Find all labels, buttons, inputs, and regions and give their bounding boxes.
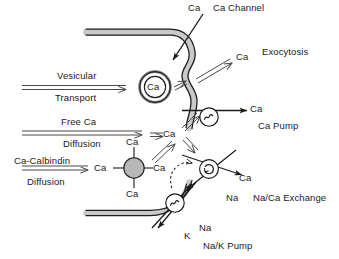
label-exocytosis: Exocytosis — [262, 46, 308, 57]
label-exchange-na: Na — [226, 192, 238, 203]
label-ca-pump-ion: Ca — [250, 103, 262, 114]
label-calbindin-ca-top: Ca — [126, 136, 138, 147]
label-ca-pump: Ca Pump — [258, 120, 298, 131]
label-na-k-pump: Na/K Pump — [203, 240, 252, 251]
label-calbindin-ca-bottom: Ca — [126, 188, 138, 199]
label-calbindin-ca-right: Ca — [153, 162, 165, 173]
label-diffusion-free: Diffusion — [63, 138, 101, 149]
label-free-ca: Free Ca — [61, 116, 96, 127]
ca-to-exchanger-arrow — [183, 137, 198, 153]
calbindin-release-arrow — [152, 141, 175, 163]
label-calbindin-ca-left: Ca — [94, 162, 106, 173]
label-ca-cytosol: Ca — [163, 128, 175, 139]
label-exocytosis-ca: Ca — [236, 51, 248, 62]
calbindin-complex — [113, 147, 153, 188]
label-exchange-ca: Ca — [239, 172, 251, 183]
label-vesicular: Vesicular — [57, 70, 96, 81]
label-pump-na: Na — [199, 222, 211, 233]
calcium-transport-diagram: Ca Ca Channel Vesicular Transport Ca Ca … — [0, 0, 339, 259]
label-diffusion-calbindin: Diffusion — [27, 176, 65, 187]
label-vesicle-ca: Ca — [147, 81, 159, 92]
label-pump-k: K — [184, 230, 190, 241]
free-ca-to-cytosol-arrow — [150, 133, 163, 137]
label-ca-entry: Ca — [188, 2, 200, 13]
vesicular-transport-arrow — [22, 86, 126, 90]
label-transport: Transport — [55, 92, 96, 103]
label-na-ca-exchange: Na/Ca Exchange — [253, 192, 326, 203]
free-ca-diffusion-arrow — [22, 131, 142, 135]
ca-calbindin-diffusion-arrow — [22, 166, 88, 170]
exocytosis-arrow — [196, 59, 232, 83]
label-ca-calbindin: Ca-Calbindin — [14, 155, 70, 166]
label-ca-channel: Ca Channel — [213, 2, 264, 13]
